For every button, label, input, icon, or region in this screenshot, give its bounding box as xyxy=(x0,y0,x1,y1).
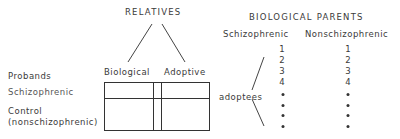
nonschizophrenic-item-4: 4 xyxy=(345,78,350,87)
column-header-biological: Biological xyxy=(104,68,150,77)
schizophrenic-item-2: 2 xyxy=(279,56,284,65)
bracket-line-lower xyxy=(252,99,264,126)
row-label-schizophrenic: Schizophrenic xyxy=(8,88,74,97)
row-label-control-sub: (nonschizophrenic) xyxy=(8,118,98,127)
nonschizophrenic-continuation-dot xyxy=(347,125,350,128)
branch-line-adoptive xyxy=(162,24,185,62)
row-label-control: Control xyxy=(8,107,42,116)
column-header-nonschizophrenic: Nonschizophrenic xyxy=(305,30,388,39)
nonschizophrenic-item-2: 2 xyxy=(345,56,350,65)
adoptees-label: adoptees xyxy=(219,93,262,102)
schizophrenic-item-4: 4 xyxy=(279,78,284,87)
relatives-title: RELATIVES xyxy=(125,8,181,17)
nonschizophrenic-continuation-dot xyxy=(347,104,350,107)
bracket-line-upper xyxy=(252,57,264,90)
schizophrenic-continuation-dot xyxy=(282,104,285,107)
schizophrenic-continuation-dot xyxy=(282,93,285,96)
column-header-adoptive: Adoptive xyxy=(164,68,206,77)
schizophrenic-item-3: 3 xyxy=(279,67,284,76)
schizophrenic-item-1: 1 xyxy=(279,45,284,54)
column-header-schizophrenic: Schizophrenic xyxy=(223,30,289,39)
nonschizophrenic-item-1: 1 xyxy=(345,45,350,54)
table-border xyxy=(105,83,210,131)
branch-line-biological xyxy=(128,24,152,62)
probands-label: Probands xyxy=(8,72,51,81)
schizophrenic-continuation-dot xyxy=(282,125,285,128)
nonschizophrenic-item-3: 3 xyxy=(345,67,350,76)
biological-parents-title: BIOLOGICAL PARENTS xyxy=(249,13,364,22)
nonschizophrenic-continuation-dot xyxy=(347,93,350,96)
schizophrenic-continuation-dot xyxy=(282,114,285,117)
nonschizophrenic-continuation-dot xyxy=(347,114,350,117)
